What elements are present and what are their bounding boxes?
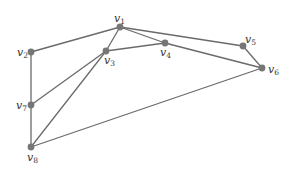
- node-label-v8: v8: [27, 152, 38, 165]
- node-label-v4: v4: [160, 47, 171, 60]
- node-v6: [259, 65, 266, 72]
- label-subscript: 1: [120, 17, 125, 26]
- edge-v5-v6: [243, 46, 262, 68]
- node-label-v3: v3: [104, 55, 115, 68]
- edge-layer: [31, 27, 262, 147]
- label-subscript: 6: [274, 68, 279, 77]
- label-subscript: 3: [110, 59, 115, 68]
- edge-v7-v3: [31, 51, 106, 105]
- label-subscript: 2: [23, 51, 28, 60]
- node-v8: [28, 144, 35, 151]
- edge-v1-v4: [120, 27, 165, 43]
- edge-v4-v6: [165, 43, 262, 68]
- label-subscript: 5: [251, 38, 256, 47]
- node-label-v7: v7: [16, 100, 27, 113]
- node-v2: [28, 49, 35, 56]
- label-subscript: 4: [166, 51, 171, 60]
- graph-diagram: v1v2v3v4v5v6v7v8: [0, 0, 292, 169]
- edge-v3-v4: [106, 43, 165, 51]
- edge-v8-v3: [31, 51, 106, 147]
- label-subscript: 8: [33, 156, 38, 165]
- node-v7: [28, 102, 35, 109]
- graph-canvas: [0, 0, 292, 169]
- edge-v1-v5: [120, 27, 243, 46]
- node-label-v1: v1: [114, 13, 125, 26]
- node-label-v2: v2: [17, 47, 28, 60]
- node-label-v5: v5: [245, 34, 256, 47]
- node-label-v6: v6: [268, 64, 279, 77]
- label-subscript: 7: [22, 104, 27, 113]
